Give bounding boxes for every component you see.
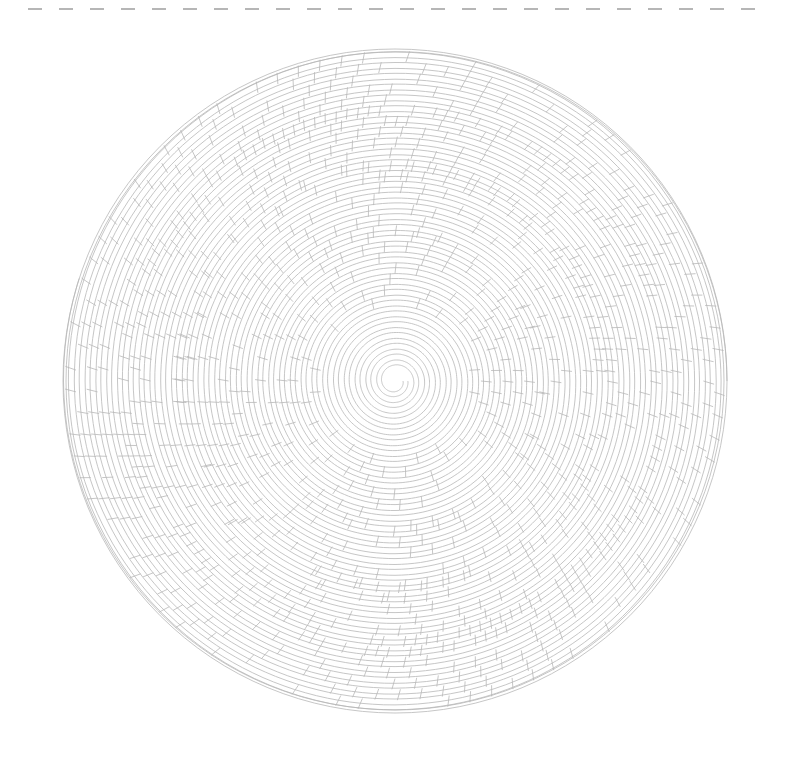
spiral-drawing (0, 0, 790, 781)
